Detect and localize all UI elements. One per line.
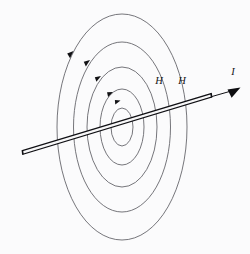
field-line-3 (87, 67, 157, 187)
field-line-group (57, 14, 187, 240)
field-label-inner: H (154, 75, 164, 86)
field-direction-arrowhead-1 (114, 98, 121, 104)
field-line-4 (74, 42, 171, 212)
field-direction-arrowhead-2 (106, 90, 114, 97)
current-wire-group (22, 88, 240, 155)
field-direction-arrowhead-3 (94, 74, 102, 82)
field-line-5 (57, 14, 187, 240)
field-label-outer: H (177, 75, 187, 86)
current-label: I (230, 66, 235, 77)
diagram-canvas: H H I (0, 0, 250, 254)
current-direction-arrowhead (228, 88, 241, 98)
magnetic-field-diagram: H H I (0, 0, 250, 254)
